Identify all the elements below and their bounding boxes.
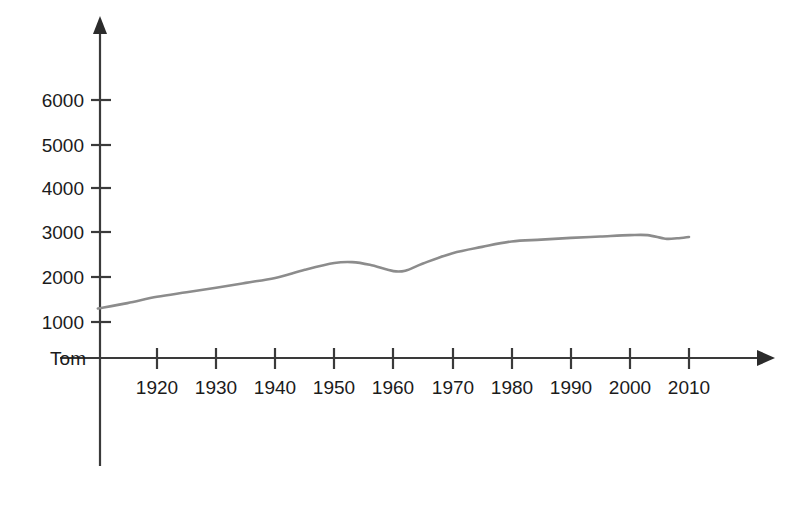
x-axis-arrow-icon <box>757 350 775 366</box>
x-axis-tick-labels: 1920 1930 1940 1950 1960 1970 1980 1990 … <box>136 377 710 398</box>
x-tick-label-1990: 1990 <box>550 377 592 398</box>
x-tick-label-1940: 1940 <box>254 377 296 398</box>
x-tick-label-1970: 1970 <box>432 377 474 398</box>
x-tick-label-1950: 1950 <box>313 377 355 398</box>
y-tick-label-6000: 6000 <box>42 90 84 111</box>
chart-canvas: 6000 5000 4000 3000 2000 1000 Tom 1920 1… <box>0 0 799 527</box>
x-tick-label-2010: 2010 <box>668 377 710 398</box>
y-tick-label-3000: 3000 <box>42 222 84 243</box>
chart-figure: 6000 5000 4000 3000 2000 1000 Tom 1920 1… <box>0 0 799 527</box>
data-line-series-1 <box>98 235 689 309</box>
x-tick-label-1920: 1920 <box>136 377 178 398</box>
y-tick-label-2000: 2000 <box>42 267 84 288</box>
y-axis-arrow-icon <box>93 16 107 34</box>
y-tick-label-1000: 1000 <box>42 312 84 333</box>
x-tick-label-1980: 1980 <box>491 377 533 398</box>
y-tick-label-5000: 5000 <box>42 135 84 156</box>
x-tick-label-2000: 2000 <box>609 377 651 398</box>
y-axis-tick-labels: 6000 5000 4000 3000 2000 1000 <box>42 90 84 333</box>
x-tick-label-1960: 1960 <box>372 377 414 398</box>
origin-label: Tom <box>50 348 86 369</box>
y-tick-label-4000: 4000 <box>42 178 84 199</box>
x-tick-label-1930: 1930 <box>195 377 237 398</box>
